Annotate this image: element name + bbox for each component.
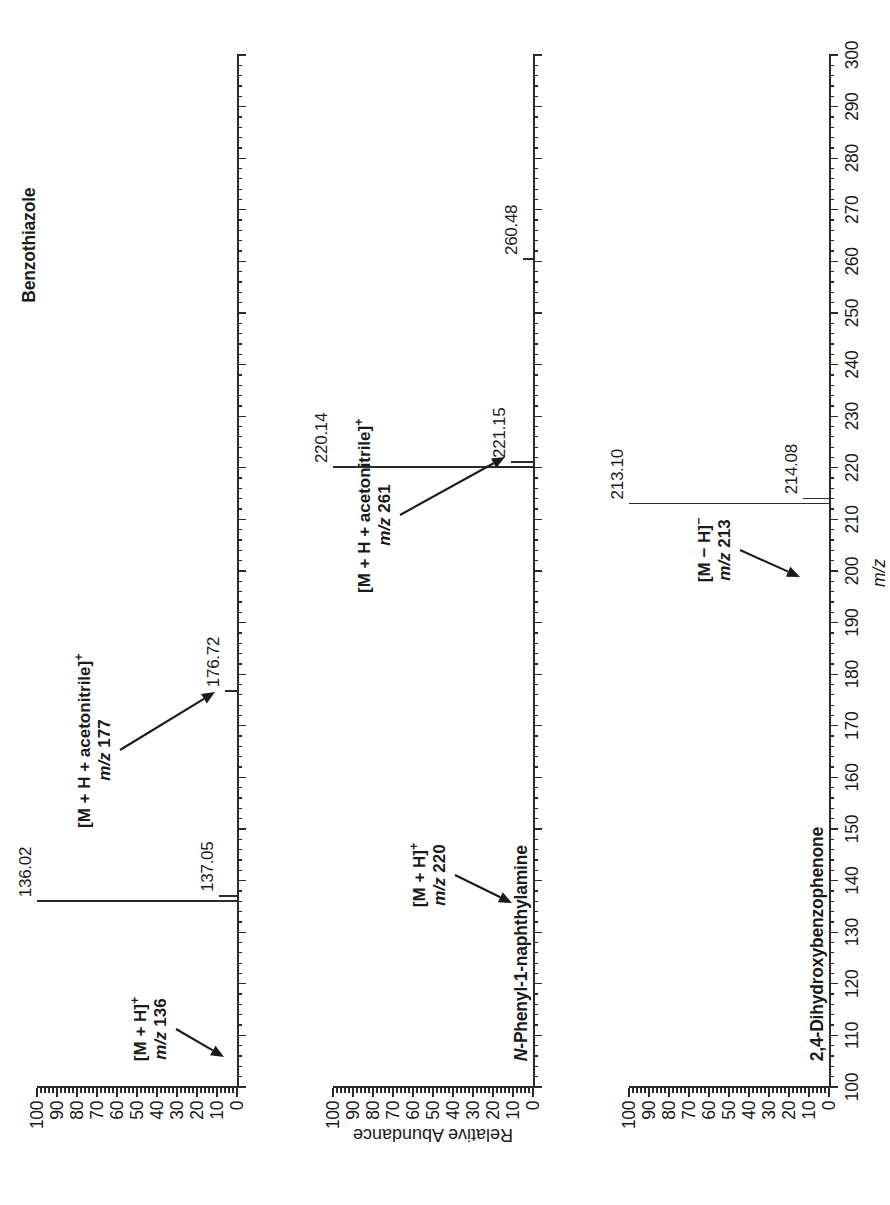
x-axis-minor-tick	[533, 601, 538, 602]
x-axis-minor-tick	[237, 705, 242, 706]
x-axis-minor-tick	[237, 911, 242, 912]
y-axis-tick-label: 30	[463, 1101, 484, 1120]
x-axis-minor-tick	[533, 1004, 538, 1005]
y-axis-minor-tick	[520, 1088, 521, 1093]
y-axis-minor-tick	[428, 1088, 429, 1093]
y-axis-minor-tick	[448, 1088, 449, 1093]
x-axis-major-tick	[533, 519, 542, 520]
x-axis-minor-tick	[237, 230, 242, 231]
y-axis-minor-tick	[732, 1088, 733, 1093]
y-axis-minor-tick	[228, 1088, 229, 1093]
x-axis-minor-tick	[829, 1066, 834, 1067]
y-axis-tick-label: 20	[483, 1101, 504, 1120]
x-axis-major-tick	[237, 983, 246, 984]
x-axis-minor-tick	[237, 756, 242, 757]
x-axis-minor-tick	[533, 271, 538, 272]
y-axis-minor-tick	[764, 1088, 765, 1093]
y-axis-minor-tick	[80, 1088, 81, 1093]
y-axis-minor-tick	[180, 1088, 181, 1093]
x-axis-minor-tick	[237, 560, 242, 561]
y-axis-minor-tick	[656, 1088, 657, 1093]
x-axis-minor-tick	[237, 1045, 242, 1046]
x-axis-minor-tick	[533, 797, 538, 798]
x-axis-minor-tick	[533, 818, 538, 819]
y-axis-minor-tick	[192, 1088, 193, 1093]
x-axis-major-tick	[237, 158, 246, 159]
y-axis-tick-label: 20	[779, 1101, 800, 1120]
x-axis-minor-tick	[533, 457, 538, 458]
y-axis-minor-tick	[468, 1088, 469, 1093]
x-axis-minor-tick	[533, 870, 538, 871]
x-axis-minor-tick	[237, 343, 242, 344]
x-axis-major-tick	[237, 519, 246, 520]
y-axis-minor-tick	[100, 1088, 101, 1093]
x-axis-major-tick	[533, 570, 542, 571]
x-axis-minor-tick	[237, 508, 242, 509]
x-axis-major-tick	[237, 312, 246, 313]
x-axis-minor-tick	[829, 766, 834, 767]
x-axis-minor-tick	[237, 735, 242, 736]
y-axis-minor-tick	[444, 1088, 445, 1093]
x-axis-minor-tick	[533, 333, 538, 334]
x-axis-minor-tick	[533, 1076, 538, 1077]
x-axis-minor-tick	[237, 901, 242, 902]
x-axis-tick-label: 300	[842, 41, 863, 69]
y-axis-minor-tick	[800, 1088, 801, 1093]
x-axis-minor-tick	[533, 281, 538, 282]
x-axis-minor-tick	[829, 147, 834, 148]
x-axis-minor-tick	[237, 694, 242, 695]
x-axis-minor-tick	[829, 168, 834, 169]
y-axis-minor-tick	[220, 1088, 221, 1093]
y-axis-tick-label: 10	[207, 1101, 228, 1120]
x-axis-minor-tick	[237, 426, 242, 427]
y-axis-minor-tick	[108, 1088, 109, 1093]
y-axis-minor-tick	[672, 1088, 673, 1093]
x-axis-tick-label: 180	[842, 660, 863, 688]
x-axis-minor-tick	[533, 746, 538, 747]
y-axis-minor-tick	[60, 1088, 61, 1093]
x-axis-major-tick	[237, 416, 246, 417]
y-axis-major-tick	[512, 1088, 513, 1097]
y-axis-minor-tick	[464, 1088, 465, 1093]
x-axis-minor-tick	[237, 447, 242, 448]
y-axis-minor-tick	[72, 1088, 73, 1093]
x-axis-tick-label: 200	[842, 557, 863, 585]
x-axis-minor-tick	[237, 137, 242, 138]
y-axis-minor-tick	[416, 1088, 417, 1093]
x-axis-minor-tick	[237, 168, 242, 169]
x-axis-tick-label: 160	[842, 763, 863, 791]
x-axis-minor-tick	[829, 808, 834, 809]
x-axis-minor-tick	[829, 374, 834, 375]
x-axis-minor-tick	[533, 787, 538, 788]
x-axis-minor-tick	[829, 395, 834, 396]
x-axis-minor-tick	[533, 447, 538, 448]
x-axis-minor-tick	[829, 498, 834, 499]
x-axis-minor-tick	[237, 96, 242, 97]
peak-label: 136.02	[16, 847, 36, 897]
y-axis-major-tick	[56, 1088, 57, 1097]
x-axis-minor-tick	[533, 426, 538, 427]
y-axis-major-tick	[708, 1088, 709, 1097]
x-axis-minor-tick	[533, 839, 538, 840]
x-axis-major-tick	[829, 725, 838, 726]
x-axis-minor-tick	[829, 632, 834, 633]
ann-261: [M + H + acetonitrile]+m/z 261	[352, 437, 395, 593]
x-axis-minor-tick	[829, 591, 834, 592]
y-axis-minor-tick	[124, 1088, 125, 1093]
x-axis-minor-tick	[533, 498, 538, 499]
x-axis-minor-tick	[829, 405, 834, 406]
x-axis-minor-tick	[237, 488, 242, 489]
y-axis-major-tick	[176, 1088, 177, 1097]
y-axis-minor-tick	[92, 1088, 93, 1093]
y-axis-tick-label: 80	[363, 1101, 384, 1120]
x-axis-minor-tick	[533, 189, 538, 190]
x-axis-minor-tick	[533, 147, 538, 148]
x-axis-minor-tick	[829, 1024, 834, 1025]
x-axis-tick-label: 190	[842, 608, 863, 636]
y-axis-major-tick	[668, 1088, 669, 1097]
y-axis-major-tick	[532, 1088, 533, 1097]
y-axis-minor-tick	[660, 1088, 661, 1093]
x-axis-minor-tick	[237, 601, 242, 602]
x-axis-minor-tick	[829, 973, 834, 974]
x-axis-major-tick	[237, 777, 246, 778]
